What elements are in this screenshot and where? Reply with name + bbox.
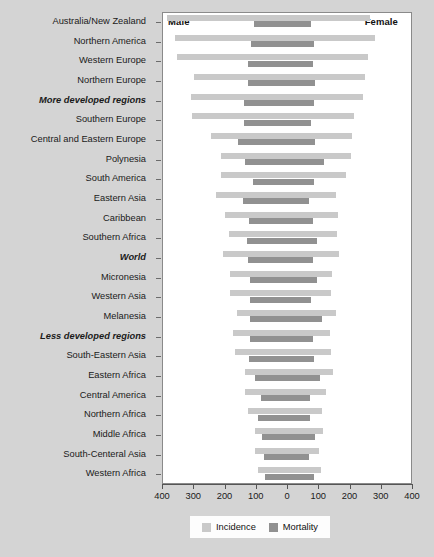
bar-male-incidence xyxy=(177,54,287,60)
bar-female-incidence xyxy=(287,448,319,454)
legend-label-mortality: Mortality xyxy=(283,522,318,532)
bar-female-mortality xyxy=(287,100,314,106)
bar-male-incidence xyxy=(233,330,287,336)
bar-female-incidence xyxy=(287,290,331,296)
bar-female-incidence xyxy=(287,15,370,21)
category-tick xyxy=(156,258,161,259)
bar-male-mortality xyxy=(249,356,287,362)
category-tick xyxy=(156,455,161,456)
bar-female-incidence xyxy=(287,369,333,375)
bar-female-incidence xyxy=(287,54,368,60)
bar-male-mortality xyxy=(244,100,287,106)
bar-female-incidence xyxy=(287,251,339,257)
bar-male-incidence xyxy=(221,153,287,159)
category-label: Northern America xyxy=(74,37,146,46)
bar-male-incidence xyxy=(230,271,287,277)
bar-male-mortality xyxy=(253,179,287,185)
legend-item-mortality: Mortality xyxy=(269,522,318,532)
x-axis-tick-label: 200 xyxy=(342,491,358,501)
bar-female-mortality xyxy=(287,375,320,381)
bar-male-incidence xyxy=(223,251,287,257)
bar-male-mortality xyxy=(248,61,287,67)
category-label: Northern Europe xyxy=(77,76,146,85)
x-axis-tick-label: 300 xyxy=(373,491,389,501)
bar-female-incidence xyxy=(287,310,336,316)
x-axis-tick xyxy=(318,484,319,489)
x-axis-tick xyxy=(381,484,382,489)
category-label: Northern Africa xyxy=(84,411,146,420)
category-tick xyxy=(156,435,161,436)
bar-male-incidence xyxy=(255,448,287,454)
bar-female-mortality xyxy=(287,198,309,204)
bar-female-mortality xyxy=(287,356,314,362)
category-label: Western Africa xyxy=(86,470,146,479)
bar-female-mortality xyxy=(287,61,313,67)
x-axis-tick-label: 100 xyxy=(310,491,326,501)
x-axis-tick-label: 200 xyxy=(217,491,233,501)
category-label: Polynesia xyxy=(106,155,146,164)
category-label: Melanesia xyxy=(104,312,146,321)
bar-female-incidence xyxy=(287,133,352,139)
category-label: Western Asia xyxy=(91,293,146,302)
bar-male-mortality xyxy=(258,415,287,421)
bar-female-mortality xyxy=(287,238,317,244)
bar-male-mortality xyxy=(250,316,288,322)
bar-male-incidence xyxy=(258,467,287,473)
x-axis-tick-label: 100 xyxy=(248,491,264,501)
category-label: Australia/New Zealand xyxy=(52,17,146,26)
category-label: South-Eastern Asia xyxy=(66,352,146,361)
bar-female-mortality xyxy=(287,434,315,440)
bar-female-mortality xyxy=(287,474,314,480)
category-tick xyxy=(156,42,161,43)
bar-female-mortality xyxy=(287,316,322,322)
bar-female-mortality xyxy=(287,336,313,342)
bar-male-incidence xyxy=(194,74,287,80)
x-axis-tick xyxy=(287,484,288,489)
x-axis-tick xyxy=(162,484,163,489)
chart-legend: Incidence Mortality xyxy=(190,516,330,538)
bar-female-mortality xyxy=(287,395,310,401)
category-tick xyxy=(156,179,161,180)
bar-female-incidence xyxy=(287,231,337,237)
bar-male-mortality xyxy=(255,375,288,381)
category-tick xyxy=(156,337,161,338)
x-axis-tick-label: 0 xyxy=(284,491,289,501)
figure-canvas: Male Female Australia/New ZealandNorther… xyxy=(0,0,434,557)
bar-male-incidence xyxy=(235,349,287,355)
bar-male-mortality xyxy=(248,257,287,263)
category-tick xyxy=(156,22,161,23)
category-label: Eastern Africa xyxy=(88,371,146,380)
category-label: Southern Europe xyxy=(76,116,146,125)
category-tick xyxy=(156,297,161,298)
bar-male-incidence xyxy=(230,290,288,296)
x-axis-tick xyxy=(193,484,194,489)
bar-female-mortality xyxy=(287,257,313,263)
category-tick xyxy=(156,415,161,416)
bar-female-incidence xyxy=(287,389,326,395)
bar-male-mortality xyxy=(238,139,287,145)
category-label: Micronesia xyxy=(101,273,146,282)
category-label: Central America xyxy=(80,391,146,400)
category-tick xyxy=(156,238,161,239)
category-label: Southern Africa xyxy=(82,234,146,243)
category-label: Eastern Asia xyxy=(94,194,146,203)
category-tick xyxy=(156,219,161,220)
bar-female-mortality xyxy=(287,21,311,27)
bar-female-incidence xyxy=(287,271,332,277)
legend-swatch-incidence xyxy=(202,523,211,532)
bar-male-mortality xyxy=(250,336,287,342)
bar-female-mortality xyxy=(287,297,311,303)
bar-female-mortality xyxy=(287,415,310,421)
category-tick xyxy=(156,376,161,377)
bar-female-incidence xyxy=(287,428,323,434)
bar-male-incidence xyxy=(216,192,287,198)
bar-female-mortality xyxy=(287,80,315,86)
category-label: South America xyxy=(86,175,146,184)
category-label: South-Centeral Asia xyxy=(63,450,146,459)
x-axis-tick xyxy=(350,484,351,489)
bar-male-mortality xyxy=(250,277,287,283)
bar-male-mortality xyxy=(243,198,287,204)
bar-female-incidence xyxy=(287,153,351,159)
category-label: Central and Eastern Europe xyxy=(31,135,146,144)
bar-series-container xyxy=(162,12,412,484)
